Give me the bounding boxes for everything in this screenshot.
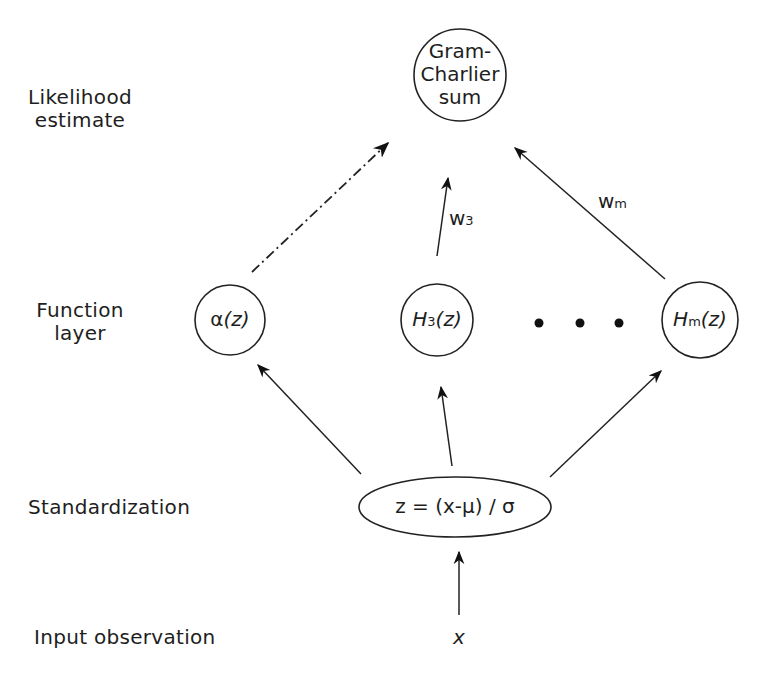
- h3-node-label: H3(z): [401, 308, 473, 333]
- input-symbol: x: [447, 626, 471, 649]
- sum-line1: Gram-: [410, 40, 510, 63]
- ellipsis-dot: [576, 319, 585, 328]
- hm-subscript: m: [688, 314, 701, 329]
- edge-hm-to-sum: [515, 148, 665, 279]
- ellipsis-dot: [615, 319, 624, 328]
- sum-line3: sum: [410, 86, 510, 109]
- layer-label-output: Likelihood estimate: [20, 86, 140, 132]
- wm-subscript: m: [614, 196, 627, 211]
- h3-symbol: H: [412, 307, 427, 331]
- layer-label-input: Input observation: [34, 626, 216, 649]
- weight-wm-label: wm: [598, 190, 627, 215]
- ellipsis-dot: [535, 319, 544, 328]
- hm-symbol: H: [673, 307, 688, 331]
- layer-label-function-line2: layer: [20, 322, 140, 345]
- edge-alpha-to-sum: [252, 143, 388, 272]
- layer-label-function-line1: Function: [20, 299, 140, 322]
- h3-subscript: 3: [427, 314, 435, 329]
- alpha-arg: (z): [224, 307, 250, 331]
- gram-charlier-sum-label: Gram- Charlier sum: [410, 40, 510, 109]
- layer-label-standardization: Standardization: [28, 496, 190, 519]
- w3-symbol: w: [449, 206, 465, 230]
- alpha-node-label: α(z): [195, 308, 265, 331]
- sum-line2: Charlier: [410, 63, 510, 86]
- hm-arg: (z): [701, 307, 727, 331]
- edge-h3-to-sum: [437, 178, 448, 256]
- weight-w3-label: w3: [449, 207, 474, 232]
- standardization-formula: z = (x-μ) / σ: [369, 495, 541, 518]
- alpha-symbol: α: [210, 307, 223, 331]
- wm-symbol: w: [598, 189, 614, 213]
- edge-standardization-to-hm: [550, 371, 661, 477]
- layer-label-function: Function layer: [20, 299, 140, 345]
- layer-label-output-line1: Likelihood: [20, 86, 140, 109]
- layer-label-output-line2: estimate: [20, 109, 140, 132]
- hm-node-label: Hm(z): [662, 308, 738, 333]
- edge-standardization-to-h3: [441, 387, 452, 466]
- h3-arg: (z): [436, 307, 462, 331]
- w3-subscript: 3: [465, 213, 473, 228]
- edge-standardization-to-alpha: [258, 365, 361, 474]
